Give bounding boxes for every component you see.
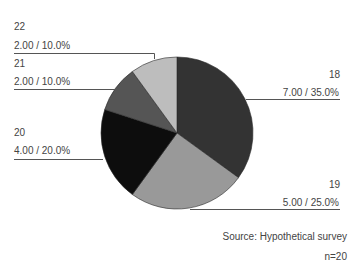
slice-label-category-22: 22 bbox=[14, 21, 25, 32]
slice-label-category-21: 21 bbox=[14, 58, 25, 69]
sample-size-note: n=20 bbox=[324, 251, 347, 262]
slice-label-value-20: 4.00 / 20.0% bbox=[14, 145, 70, 156]
slice-label-category-18: 18 bbox=[329, 69, 340, 80]
leader-line-22 bbox=[14, 54, 155, 60]
slice-label-value-22: 2.00 / 10.0% bbox=[14, 40, 70, 51]
pie-chart: 22 2.00 / 10.0% 21 2.00 / 10.0% 20 4.00 … bbox=[0, 0, 355, 277]
slice-label-value-21: 2.00 / 10.0% bbox=[14, 76, 70, 87]
source-note: Source: Hypothetical survey bbox=[222, 231, 347, 242]
slice-label-category-20: 20 bbox=[14, 127, 25, 138]
pie-slices bbox=[101, 57, 253, 209]
slice-label-category-19: 19 bbox=[329, 179, 340, 190]
slice-label-value-18: 7.00 / 35.0% bbox=[283, 87, 339, 98]
slice-label-value-19: 5.00 / 25.0% bbox=[283, 197, 339, 208]
